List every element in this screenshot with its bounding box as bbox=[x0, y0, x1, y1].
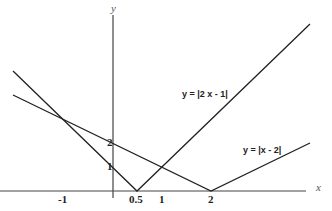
annotation-eq2: y = |x - 2| bbox=[243, 145, 281, 155]
y-tick-1: 1 bbox=[107, 160, 113, 172]
x-tick-1: 1 bbox=[159, 193, 165, 205]
annotation-eq1: y = |2 x - 1| bbox=[182, 89, 228, 99]
chart: y x -1 0.5 1 2 1 2 y = |2 x - 1| y = |x … bbox=[0, 0, 332, 211]
y-axis-label: y bbox=[110, 2, 116, 14]
series-abs-x-minus-2 bbox=[13, 95, 310, 191]
series-abs-2x-minus-1 bbox=[13, 24, 310, 191]
x-tick-neg1: -1 bbox=[58, 193, 67, 205]
x-tick-2: 2 bbox=[208, 193, 214, 205]
x-tick-0-5: 0.5 bbox=[129, 193, 143, 205]
y-tick-2: 2 bbox=[107, 136, 113, 148]
x-axis-label: x bbox=[315, 181, 321, 193]
